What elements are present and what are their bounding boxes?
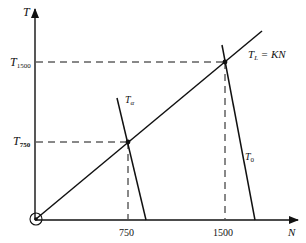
t-zero-line <box>222 45 255 220</box>
y-axis-label: T <box>23 5 31 19</box>
intersection-750 <box>126 140 131 145</box>
x-tick-750: 750 <box>119 227 134 238</box>
t1500-label: T1500 <box>10 55 31 70</box>
t-alpha-line <box>117 98 146 220</box>
x-axis-label: N <box>287 226 296 238</box>
load-line <box>36 31 262 219</box>
load-line-label: TL = KN <box>248 48 286 62</box>
torque-speed-diagram: T N T1500 T750 750 1500 TL = KN Tα T0 <box>0 0 306 243</box>
intersection-1500 <box>223 60 228 65</box>
t750-label: T750 <box>13 134 31 149</box>
t-zero-label: T0 <box>245 151 255 164</box>
t-alpha-label: Tα <box>125 94 135 107</box>
x-tick-1500: 1500 <box>213 227 233 238</box>
